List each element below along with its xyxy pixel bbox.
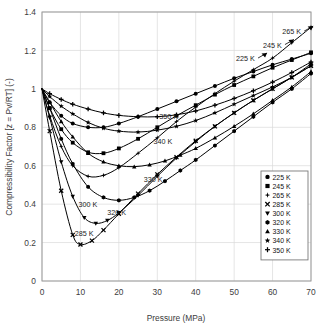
- data-point-marker: [155, 107, 159, 111]
- data-point-marker: [136, 137, 140, 141]
- legend-marker-circle-icon: [265, 175, 269, 179]
- x-tick-label: 10: [76, 287, 86, 297]
- data-point-marker: [86, 125, 90, 129]
- data-point-marker: [175, 99, 179, 103]
- curve-label-285-k: 285 K: [75, 229, 94, 238]
- y-tick-label: 1.2: [24, 46, 36, 56]
- legend-label: 285 K: [273, 201, 291, 208]
- curve-label-245-k: 245 K: [263, 41, 282, 50]
- legend-label: 225 K: [273, 174, 291, 181]
- x-tick-label: 50: [229, 287, 239, 297]
- x-tick-label: 40: [191, 287, 201, 297]
- data-point-marker: [290, 58, 294, 62]
- data-point-marker: [102, 151, 106, 155]
- legend-label: 265 K: [273, 192, 291, 199]
- y-tick-label: 1.4: [24, 7, 36, 17]
- y-tick-label: 0.6: [24, 161, 36, 171]
- legend-label: 320 K: [273, 219, 291, 226]
- chart-canvas: 010203040506070 00.20.40.60.811.21.4 265…: [0, 0, 324, 327]
- data-point-marker: [59, 114, 63, 118]
- legend-label: 340 K: [273, 237, 291, 244]
- curve-label-265-k: 265 K: [282, 27, 301, 36]
- data-point-marker: [117, 147, 121, 151]
- y-tick-label: 1: [31, 84, 36, 94]
- y-tick-label: 0.2: [24, 238, 36, 248]
- curve-label-320-k: 320 K: [107, 208, 126, 217]
- data-point-marker: [251, 74, 255, 78]
- data-point-marker: [232, 83, 236, 87]
- data-point-marker: [59, 127, 63, 131]
- legend-label: 300 K: [273, 210, 291, 217]
- data-point-marker: [71, 121, 75, 125]
- curve-label-340-k: 340 K: [153, 137, 172, 146]
- data-point-marker: [194, 92, 198, 96]
- curve-label-350-k: 350 K: [159, 112, 178, 121]
- x-axis-title: Pressure (MPa): [147, 313, 206, 323]
- legend-label: 330 K: [273, 228, 291, 235]
- x-tick-label: 20: [114, 287, 124, 297]
- data-point-marker: [309, 50, 313, 54]
- compressibility-factor-chart: 010203040506070 00.20.40.60.811.21.4 265…: [0, 0, 324, 327]
- y-tick-label: 0: [31, 276, 36, 286]
- curve-label-225-k: 225 K: [236, 54, 255, 63]
- legend-label: 350 K: [273, 247, 291, 254]
- y-tick-label: 0.8: [24, 122, 36, 132]
- x-tick-label: 30: [153, 287, 163, 297]
- y-axis-title: Compressibility Factor [z = Pv/RT] (-): [4, 78, 14, 216]
- data-point-marker: [117, 121, 121, 125]
- data-point-marker: [213, 84, 217, 88]
- legend-label: 245 K: [273, 183, 291, 190]
- y-tick-label: 0.4: [24, 199, 36, 209]
- x-tick-label: 60: [268, 287, 278, 297]
- legend[interactable]: 225 K245 K265 K285 K300 K320 K330 K340 K…: [261, 171, 308, 260]
- data-point-marker: [71, 141, 75, 145]
- curve-label-330-k: 330 K: [144, 175, 163, 184]
- data-point-marker: [271, 66, 275, 70]
- curve-label-300-k: 300 K: [79, 200, 98, 209]
- legend-marker-square-icon: [265, 184, 269, 188]
- x-tick-label: 0: [40, 287, 45, 297]
- x-tick-label: 70: [306, 287, 316, 297]
